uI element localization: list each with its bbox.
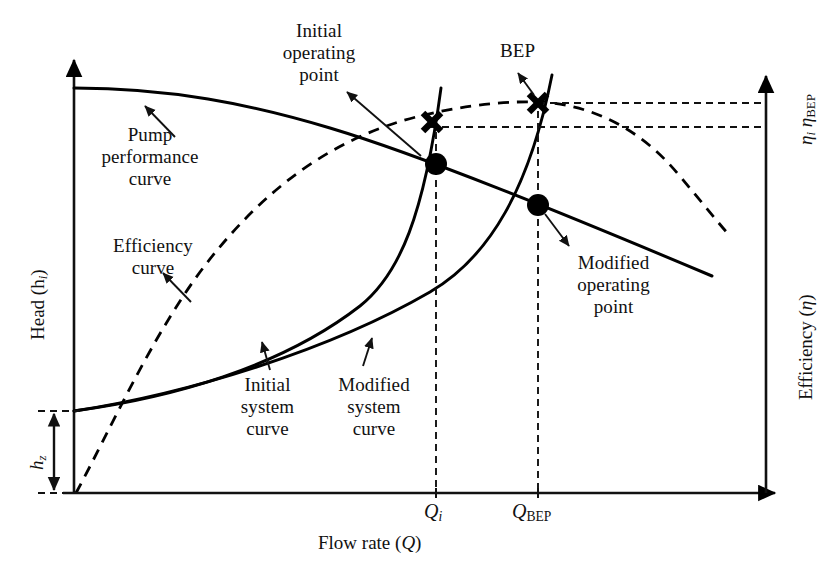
qbep-symbol: Q — [512, 500, 526, 522]
modified-operating-point-marker — [527, 194, 549, 216]
modified-operating-point-label: Modified operating point — [546, 252, 681, 318]
eta-bep-symbol: η — [795, 118, 816, 127]
bep-label: BEP — [470, 40, 565, 62]
qbep-subscript: BEP — [526, 509, 551, 524]
qi-symbol: Q — [424, 500, 438, 522]
x-tick-label-qi: Qi — [424, 500, 442, 525]
static-head-symbol: h — [26, 461, 47, 471]
initial-operating-point-marker — [425, 153, 447, 175]
x-tick-label-qbep: QBEP — [512, 500, 551, 525]
arrow-to-modified-operating-point — [545, 214, 569, 246]
y-axis-right-title-close: ) — [795, 294, 816, 300]
plot-canvas — [0, 0, 823, 581]
efficiency-curve-label: Efficiency curve — [83, 235, 223, 279]
eta-i-subscript: i — [803, 132, 818, 136]
initial-operating-point-label: Initial operating point — [255, 20, 383, 86]
q-symbol: Q — [401, 532, 415, 553]
qi-subscript: i — [438, 509, 442, 524]
y-axis-left-title: Head (hi) — [27, 269, 51, 340]
x-axis-title: Flow rate (Q) — [318, 532, 421, 554]
initial-efficiency-x-marker — [423, 113, 441, 131]
arrow-to-bep — [518, 73, 534, 95]
y-axis-right-title-text: Efficiency ( — [795, 310, 816, 400]
x-axis-title-text: Flow rate ( — [318, 532, 401, 553]
static-head-subscript: z — [34, 455, 49, 460]
x-axis-title-close: ) — [415, 532, 421, 553]
eta-bep-subscript: BEP — [803, 94, 818, 118]
eta-symbol: η — [795, 301, 816, 310]
y-axis-right-title: Efficiency (η) — [795, 294, 817, 400]
modified-system-curve-label: Modified system curve — [313, 374, 435, 440]
static-head-label: hz — [26, 455, 50, 470]
pump-performance-curve-label: Pump performance curve — [75, 124, 225, 190]
arrow-to-modified-system-curve — [363, 338, 372, 366]
y-axis-left-title-close: ) — [27, 269, 48, 275]
eta-i-symbol: η — [795, 136, 816, 145]
eta-label-gap — [795, 127, 816, 132]
leader-arrows — [145, 73, 569, 370]
y-axis-left-title-text: Head (h — [27, 279, 48, 340]
initial-system-curve-label: Initial system curve — [215, 374, 320, 440]
pump-system-curve-figure: Pump performance curve Efficiency curve … — [0, 0, 823, 581]
eta-value-labels: ηi ηBEP — [795, 94, 819, 145]
y-axis-left-title-subscript: i — [35, 276, 50, 280]
